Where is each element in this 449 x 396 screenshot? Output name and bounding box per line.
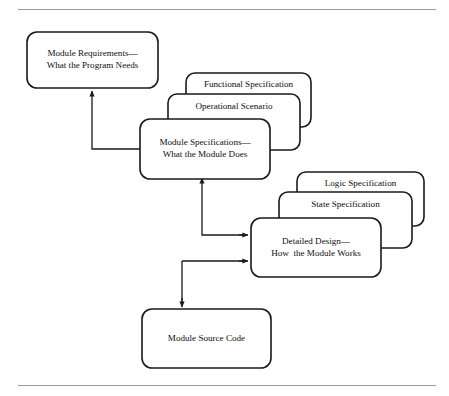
connector-detaileddesign-to-source [182,261,248,307]
connector-modspec-detaileddesign-upper [202,178,248,235]
diagram-canvas [0,0,449,396]
horizontal-rule-bottom [18,385,436,386]
node-module-source-code[interactable] [142,309,271,368]
connector-modspec-to-modreq [92,91,140,149]
diagram-figure: Module Requirements— What the Program Ne… [0,0,449,396]
node-module-requirements[interactable] [27,32,158,88]
node-module-specifications[interactable] [140,119,270,179]
node-detailed-design[interactable] [251,218,381,277]
